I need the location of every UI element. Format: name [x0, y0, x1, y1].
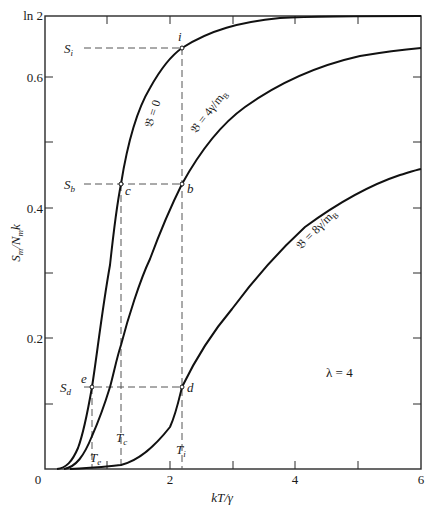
curve-b4 [64, 48, 421, 469]
curve-label-b0: 𝔅 = 0 [142, 98, 164, 129]
curve-label-b8: 𝔅 = 8γ/mB [293, 206, 340, 253]
lambda-annotation: λ = 4 [326, 365, 353, 380]
point-label-d: d [187, 380, 194, 395]
marker-d [180, 385, 184, 389]
point-label-i: i [178, 29, 182, 44]
point-markers [90, 46, 184, 389]
label-t-i: Ti [176, 442, 186, 459]
y-tick-0.2: 0.2 [27, 331, 43, 346]
left-ticks [45, 77, 53, 404]
plot-frame [45, 16, 421, 469]
y-tick-0.4: 0.4 [27, 201, 44, 216]
x-tick-6: 6 [418, 472, 425, 487]
curve-b8 [70, 169, 421, 469]
marker-i [180, 46, 184, 50]
label-t-e: Te [90, 450, 101, 467]
label-s-d: Sd [60, 380, 72, 397]
bottom-ticks [107, 461, 358, 469]
curve-b0 [57, 16, 421, 469]
entropy-chart: ln 2 0.6 0.4 0.2 0 2 4 6 kT/γ Sm/Nmk Si … [0, 0, 432, 508]
label-t-c: Tc [116, 430, 127, 447]
marker-c [119, 182, 123, 186]
x-tick-4: 4 [292, 472, 299, 487]
label-s-i: Si [64, 41, 74, 58]
point-label-e: e [81, 371, 87, 386]
point-label-c: c [125, 183, 131, 198]
reference-lines [84, 48, 182, 469]
label-s-b: Sb [64, 177, 76, 194]
y-tick-0.6: 0.6 [27, 70, 44, 85]
y-axis-title: Sm/Nmk [8, 224, 25, 262]
x-tick-2: 2 [167, 472, 174, 487]
marker-b [180, 182, 184, 186]
curves [57, 16, 421, 469]
marker-e [90, 385, 94, 389]
x-axis-title: kT/γ [211, 490, 234, 505]
right-ticks [413, 77, 421, 404]
origin-label: 0 [35, 472, 42, 487]
curve-label-b4: 𝔅 = 4γ/mB [187, 87, 231, 137]
y-tick-ln2: ln 2 [23, 8, 43, 23]
point-label-b: b [187, 181, 194, 196]
